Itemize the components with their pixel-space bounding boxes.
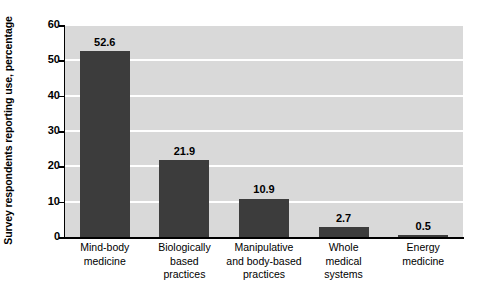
x-axis-category-label: Mind-bodymedicine [65, 241, 145, 268]
y-axis-tick-label: 50 [22, 54, 60, 65]
y-axis-tick-label: 30 [22, 125, 60, 136]
y-axis-tick-mark [59, 202, 64, 204]
x-axis-label-line: Energy [383, 241, 463, 255]
y-axis-tick-mark [59, 166, 64, 168]
bar [319, 227, 369, 237]
bar-value-label: 21.9 [144, 145, 224, 157]
x-axis-label-line: Manipulative [224, 241, 304, 255]
x-axis-line [64, 237, 464, 239]
bar [80, 51, 130, 237]
bar-value-label: 10.9 [224, 183, 304, 195]
y-axis-tick-mark [59, 237, 64, 239]
x-axis-label-line: systems [304, 268, 384, 282]
x-axis-label-line: based [145, 255, 225, 269]
x-axis-label-line: Mind-body [65, 241, 145, 255]
x-axis-label-line: Biologically [145, 241, 225, 255]
y-axis-tick-label: 0 [22, 231, 60, 242]
x-axis-category-labels: Mind-bodymedicineBiologicallybasedpracti… [65, 241, 463, 299]
bar-value-label: 52.6 [65, 36, 145, 48]
bar [159, 160, 209, 237]
plot-area [65, 25, 463, 237]
bar [398, 235, 448, 237]
x-axis-label-line: practices [145, 268, 225, 282]
x-axis-label-line: medicine [65, 255, 145, 269]
y-axis-tick-label: 10 [22, 196, 60, 207]
bar-value-label: 2.7 [304, 212, 384, 224]
x-axis-category-label: Biologicallybasedpractices [145, 241, 225, 282]
y-axis-tick-mark [59, 60, 64, 62]
x-axis-label-line: medicine [383, 255, 463, 269]
x-axis-category-label: Manipulativeand body-basedpractices [224, 241, 304, 282]
x-axis-category-label: Energymedicine [383, 241, 463, 268]
y-axis-tick-mark [59, 96, 64, 98]
y-axis-tick-label: 60 [22, 19, 60, 30]
bar [239, 199, 289, 238]
y-axis-title: Survey respondents reporting use, percen… [0, 12, 16, 249]
x-axis-category-label: Wholemedicalsystems [304, 241, 384, 282]
x-axis-label-line: Whole [304, 241, 384, 255]
gridline [65, 24, 463, 26]
x-axis-label-line: medical [304, 255, 384, 269]
y-axis-tick-labels: 0102030405060 [22, 0, 60, 299]
x-axis-label-line: practices [224, 268, 304, 282]
y-axis-tick-label: 40 [22, 90, 60, 101]
x-axis-label-line: and body-based [224, 255, 304, 269]
y-axis-tick-mark [59, 131, 64, 133]
bar-value-label: 0.5 [383, 220, 463, 232]
y-axis-tick-label: 20 [22, 160, 60, 171]
y-axis-tick-mark [59, 25, 64, 27]
bar-chart-figure: Survey respondents reporting use, percen… [0, 0, 483, 299]
